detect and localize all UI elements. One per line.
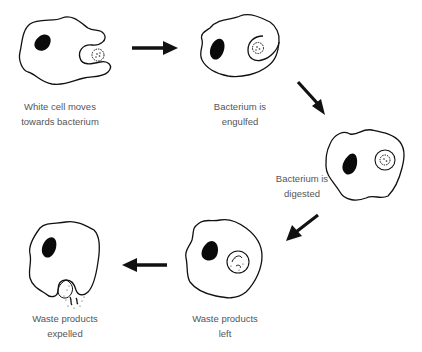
stage-1-bacterium — [92, 49, 104, 61]
stage-5-nucleus — [42, 237, 57, 257]
stage-2-label-line-2: engulfed — [190, 115, 290, 130]
stage-4-label-line-1: Waste products — [175, 312, 275, 327]
arrow-right-icon — [132, 41, 178, 55]
arrow-down-left-icon — [286, 215, 318, 241]
stage-4-cell — [186, 219, 262, 297]
stage-3-label-line-2: digested — [262, 187, 342, 202]
stage-3-nucleus — [342, 154, 357, 175]
stage-5-label-line-2: expelled — [15, 327, 115, 342]
stage-5-label: Waste products expelled — [15, 312, 115, 341]
stage-1-label-line-1: White cell moves — [10, 100, 110, 115]
stage-4-label: Waste products left — [175, 312, 275, 341]
stage-2-label: Bacterium is engulfed — [190, 100, 290, 129]
stage-2-label-line-1: Bacterium is — [190, 100, 290, 115]
stage-1-cell — [19, 17, 110, 84]
stage-1-label: White cell moves towards bacterium — [10, 100, 110, 129]
stage-4-vacuole — [227, 251, 249, 273]
stage-2-nucleus — [210, 39, 225, 60]
stage-1-label-line-2: towards bacterium — [10, 115, 110, 130]
stage-4-label-line-2: left — [175, 327, 275, 342]
stage-5-cell — [29, 222, 99, 298]
arrow-left-icon — [122, 258, 167, 272]
phagocytosis-diagram: White cell moves towards bacterium Bacte… — [0, 0, 422, 352]
diagram-drawing — [0, 0, 422, 352]
stage-3-vacuole — [375, 150, 395, 170]
arrow-down-right-icon — [298, 82, 325, 115]
stage-3-label: Bacterium is digested — [262, 172, 342, 201]
stage-2-bacterium — [253, 43, 264, 54]
stage-5-label-line-1: Waste products — [15, 312, 115, 327]
stage-3-label-line-1: Bacterium is — [262, 172, 342, 187]
stage-1-nucleus — [34, 34, 50, 50]
stage-4-nucleus — [202, 241, 219, 260]
stage-5-expelled-waste — [63, 285, 84, 308]
